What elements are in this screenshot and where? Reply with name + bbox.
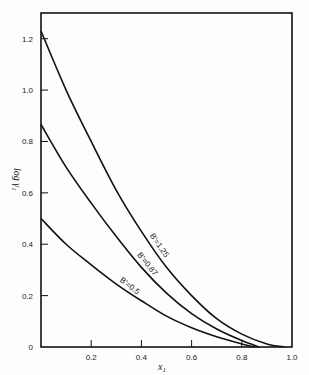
y-tick-label: 0.8	[22, 137, 34, 146]
curves	[41, 31, 284, 347]
plot-frame	[41, 13, 292, 347]
x-axis-title: x1	[157, 361, 166, 374]
y-tick-label: 0.4	[22, 240, 34, 249]
curve-B05	[41, 219, 254, 347]
curve-B125	[41, 31, 284, 347]
y-tick-label: 1.0	[22, 86, 34, 95]
y-tick-label: 0	[29, 343, 34, 352]
x-tick-label: 0.8	[236, 353, 248, 362]
y-tick-label: 0.2	[22, 292, 34, 301]
chart: 00.20.40.60.81.01.2 0.20.40.60.81.0 B'=1…	[0, 0, 309, 375]
x-tick-label: 0.6	[186, 353, 198, 362]
x-tick-label: 0.2	[86, 353, 98, 362]
y-tick-label: 0.6	[22, 189, 34, 198]
y-tick-label: 1.2	[22, 35, 34, 44]
x-tick-label: 1.0	[286, 353, 298, 362]
curve-labels: B'=1.25B'=0.87B'=0.5	[118, 232, 171, 297]
x-tick-label: 0.4	[136, 353, 148, 362]
y-axis-ticks: 00.20.40.60.81.01.2	[22, 35, 48, 352]
y-axis-title: log γ1	[10, 168, 23, 191]
